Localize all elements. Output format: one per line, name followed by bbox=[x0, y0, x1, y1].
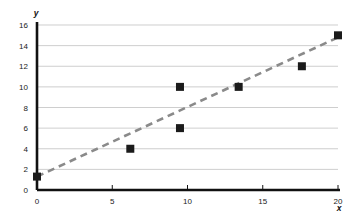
data-point-2 bbox=[176, 83, 184, 91]
trend-line bbox=[37, 37, 338, 176]
x-tick-label-15: 15 bbox=[258, 197, 267, 206]
trend-line-series bbox=[37, 37, 338, 176]
y-axis-title: y bbox=[33, 8, 40, 18]
y-tick-label-8: 8 bbox=[24, 104, 29, 113]
chart-canvas: 0246810121416 05101520 y x bbox=[0, 0, 362, 216]
gridlines bbox=[37, 25, 338, 169]
y-tick-label-14: 14 bbox=[19, 42, 28, 51]
axis-lines bbox=[37, 22, 340, 190]
y-axis-tick-labels: 0246810121416 bbox=[19, 21, 28, 195]
y-tick-label-10: 10 bbox=[19, 83, 28, 92]
scatter-plot-chart: 0246810121416 05101520 y x bbox=[0, 0, 362, 216]
data-point-0 bbox=[33, 173, 41, 181]
y-tick-label-12: 12 bbox=[19, 62, 28, 71]
y-tick-label-4: 4 bbox=[24, 145, 29, 154]
y-tick-label-0: 0 bbox=[24, 186, 29, 195]
data-point-1 bbox=[126, 145, 134, 153]
y-tick-label-2: 2 bbox=[24, 165, 29, 174]
x-tick-label-5: 5 bbox=[110, 197, 115, 206]
x-tick-label-10: 10 bbox=[183, 197, 192, 206]
y-tick-label-16: 16 bbox=[19, 21, 28, 30]
y-tick-label-6: 6 bbox=[24, 124, 29, 133]
data-point-4 bbox=[235, 83, 243, 91]
x-tick-label-0: 0 bbox=[35, 197, 40, 206]
data-point-3 bbox=[176, 124, 184, 132]
data-point-markers bbox=[33, 31, 342, 180]
x-axis-tick-labels: 05101520 bbox=[35, 197, 343, 206]
data-point-6 bbox=[334, 31, 342, 39]
data-point-5 bbox=[298, 62, 306, 70]
